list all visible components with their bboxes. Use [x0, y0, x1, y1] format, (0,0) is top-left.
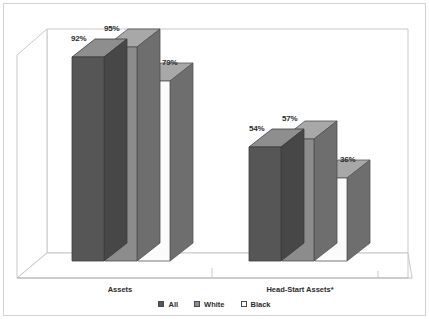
- data-label-assets-black: 79%: [162, 58, 177, 67]
- floor-right-diagonal: [408, 253, 412, 278]
- data-label-headstart-white: 57%: [282, 114, 297, 123]
- data-label-assets-all: 92%: [71, 34, 86, 43]
- legend-swatch-black-icon: [241, 301, 247, 307]
- bar-side-face: [314, 121, 337, 261]
- legend-swatch-all-icon: [158, 301, 164, 307]
- left-wall: [17, 29, 47, 278]
- bar-side-face: [281, 129, 304, 261]
- legend-label-white: White: [204, 300, 224, 309]
- bar-assets-all: [72, 39, 127, 261]
- legend-swatch-white-icon: [194, 301, 200, 307]
- data-label-assets-white: 95%: [104, 24, 119, 33]
- category-label-head-start-assets: Head-Start Assets*: [235, 285, 365, 294]
- legend-label-all: All: [168, 300, 178, 309]
- bar-side-face: [104, 39, 127, 261]
- chart-plot-area: [0, 0, 429, 319]
- bar-side-face: [170, 63, 193, 261]
- legend-item-black[interactable]: Black: [241, 300, 271, 309]
- legend-item-all[interactable]: All: [158, 300, 178, 309]
- bar-front-face: [72, 57, 104, 261]
- bar-headstart-all: [249, 129, 304, 261]
- chart-container: 92% 95% 79% 54% 57% 36% Assets Head-Star…: [0, 0, 429, 319]
- chart-legend: All White Black: [0, 296, 429, 312]
- bar-side-face: [137, 29, 160, 261]
- data-label-headstart-black: 36%: [340, 155, 355, 164]
- bar-front-face: [249, 147, 281, 261]
- category-label-assets: Assets: [60, 285, 180, 294]
- legend-label-black: Black: [251, 300, 271, 309]
- legend-item-white[interactable]: White: [194, 300, 224, 309]
- data-label-headstart-all: 54%: [249, 124, 264, 133]
- bar-side-face: [347, 160, 370, 261]
